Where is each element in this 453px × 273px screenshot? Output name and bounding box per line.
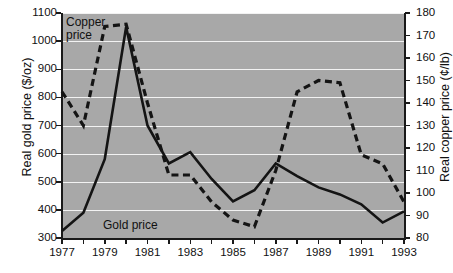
left-tick-label: 600 <box>38 148 57 159</box>
right-tick-label: 100 <box>416 187 435 198</box>
left-tick-label: 700 <box>38 120 57 131</box>
gridline <box>62 13 404 14</box>
gridline <box>62 154 404 155</box>
right-tick <box>405 80 410 82</box>
x-tick-label: 1981 <box>125 246 171 258</box>
left-tick-label: 400 <box>38 204 57 215</box>
left-tick-label: 1100 <box>32 7 57 18</box>
x-tick-label: 1991 <box>338 246 384 258</box>
right-tick-label: 110 <box>416 165 434 176</box>
right-tick <box>405 125 410 127</box>
left-tick-label: 800 <box>38 91 57 102</box>
right-tick <box>405 57 410 59</box>
x-tick <box>125 239 127 244</box>
x-tick <box>254 239 256 244</box>
right-tick <box>405 237 410 239</box>
left-tick-label: 300 <box>38 232 57 243</box>
x-tick <box>168 239 170 244</box>
right-tick <box>405 147 410 149</box>
right-tick <box>405 170 410 172</box>
right-axis-title: Real copper price (¢/lb) <box>438 32 452 202</box>
x-tick <box>61 239 63 244</box>
x-tick <box>83 239 85 244</box>
x-tick-label: 1983 <box>167 246 213 258</box>
x-tick <box>382 239 384 244</box>
right-tick-label: 160 <box>416 52 435 63</box>
right-axis-line <box>404 13 406 240</box>
left-tick-label: 500 <box>38 176 57 187</box>
gridline <box>62 97 404 98</box>
right-tick-label: 150 <box>416 75 435 86</box>
x-tick <box>211 239 213 244</box>
x-tick <box>339 239 341 244</box>
x-tick <box>232 239 234 244</box>
right-tick-label: 180 <box>416 7 435 18</box>
x-tick-label: 1979 <box>82 246 128 258</box>
right-tick-label: 80 <box>416 232 429 243</box>
x-tick <box>318 239 320 244</box>
x-tick <box>361 239 363 244</box>
x-tick-label: 1993 <box>381 246 427 258</box>
right-tick-label: 140 <box>416 97 435 108</box>
gridline <box>62 69 404 70</box>
left-tick-label: 1000 <box>31 35 57 46</box>
gridline <box>62 182 404 183</box>
right-tick <box>405 35 410 37</box>
right-tick-label: 170 <box>416 30 435 41</box>
copper-series-annotation: Copper price <box>66 16 105 41</box>
x-tick-label: 1985 <box>210 246 256 258</box>
right-tick <box>405 12 410 14</box>
gridline <box>62 210 404 211</box>
left-tick-label: 900 <box>38 63 57 74</box>
gridline <box>62 126 404 127</box>
left-axis-title: Real gold price ($/oz) <box>20 42 34 192</box>
right-tick-label: 130 <box>416 120 435 131</box>
right-tick <box>405 215 410 217</box>
x-tick <box>403 239 405 244</box>
left-axis-line <box>61 13 63 240</box>
x-tick <box>190 239 192 244</box>
x-tick <box>104 239 106 244</box>
right-tick <box>405 102 410 104</box>
x-tick <box>296 239 298 244</box>
x-tick <box>147 239 149 244</box>
gold-series-annotation: Gold price <box>103 219 158 232</box>
right-tick-label: 90 <box>416 210 429 221</box>
x-tick-label: 1989 <box>296 246 342 258</box>
right-tick <box>405 192 410 194</box>
right-tick-label: 120 <box>416 142 435 153</box>
chart-figure: 30040050060070080090010001100 8090100110… <box>0 0 453 273</box>
x-tick <box>275 239 277 244</box>
gridline <box>62 41 404 42</box>
x-tick-label: 1987 <box>253 246 299 258</box>
x-tick-label: 1977 <box>39 246 85 258</box>
